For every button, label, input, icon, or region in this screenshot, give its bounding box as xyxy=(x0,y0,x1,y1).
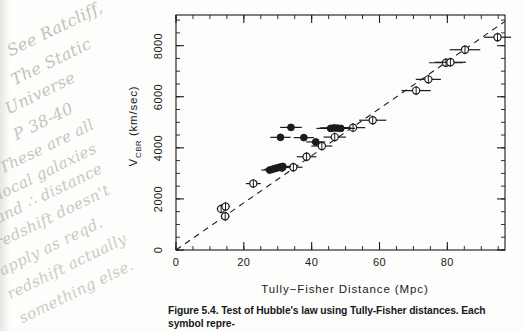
x-axis-tick-label: 80 xyxy=(441,256,454,268)
x-axis-tick-label: 0 xyxy=(173,256,180,268)
x-axis-title: Tully−Fisher Distance (Mpc) xyxy=(0,283,525,295)
data-point-filled xyxy=(277,134,284,141)
y-axis-tick-label: 8000 xyxy=(152,32,164,58)
figure-caption: Figure 5.4. Test of Hubble's law using T… xyxy=(168,305,520,331)
y-axis-title: VCBR (km/sec) xyxy=(127,86,142,167)
scanned-page: See Ratcliff,The StaticUniverseP 38-40Th… xyxy=(0,0,525,331)
y-axis-title-wrapper: VCBR (km/sec) xyxy=(126,0,144,252)
y-axis-title-subscript: CBR xyxy=(134,140,143,158)
y-axis-title-base: V xyxy=(127,158,139,166)
data-point-filled xyxy=(300,134,307,141)
data-point-filled xyxy=(337,125,344,132)
x-axis-tick-label: 60 xyxy=(373,256,386,268)
data-point-filled xyxy=(279,163,286,170)
x-axis-tick-label: 40 xyxy=(305,256,318,268)
figure-5-4: VCBR (km/sec) Tully−Fisher Distance (Mpc… xyxy=(0,0,525,331)
data-series-open-circle xyxy=(217,33,511,221)
figure-caption-label: Figure 5.4. xyxy=(168,305,218,316)
y-axis-title-unit: (km/sec) xyxy=(127,86,139,140)
y-axis-tick-label: 6000 xyxy=(152,83,164,109)
y-axis-tick-label: 4000 xyxy=(152,135,164,161)
data-point-filled xyxy=(288,124,295,131)
y-axis-tick-label: 0 xyxy=(152,247,164,254)
data-point-filled xyxy=(312,139,319,146)
y-axis-tick-label: 2000 xyxy=(152,186,164,212)
x-axis-tick-label: 20 xyxy=(237,256,250,268)
hubble-law-scatter-plot xyxy=(0,0,525,300)
data-series-filled-circle xyxy=(261,124,355,173)
